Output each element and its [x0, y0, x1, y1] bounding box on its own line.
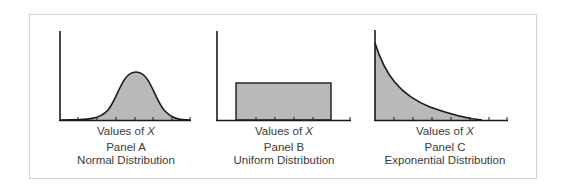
panel-title: Exponential Distribution [365, 154, 525, 167]
panel-title: Uniform Distribution [204, 154, 364, 167]
panel-label: Panel C [365, 141, 525, 154]
x-axis-label: Values of X [204, 125, 364, 138]
x-axis-label: Values of X [365, 125, 525, 138]
panel-c-plot [374, 30, 508, 121]
panel-title: Normal Distribution [46, 154, 206, 167]
panel-label: Panel A [46, 141, 206, 154]
panel-a-caption: Values of X Panel A Normal Distribution [46, 125, 206, 167]
panel-b-plot [216, 31, 351, 121]
panel-b-caption: Values of X Panel B Uniform Distribution [204, 125, 364, 167]
panel-c-caption: Values of X Panel C Exponential Distribu… [365, 125, 525, 167]
panel-a-plot [59, 31, 191, 121]
x-axis-label: Values of X [46, 125, 206, 138]
panel-label: Panel B [204, 141, 364, 154]
